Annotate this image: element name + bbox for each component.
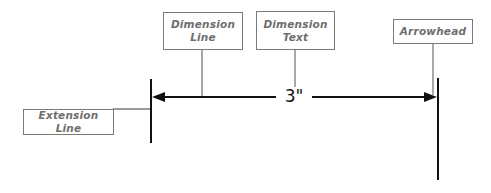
arrowhead-right-icon: [424, 92, 437, 102]
callout-dimension-text-line1: Dimension: [263, 18, 327, 31]
dimension-value-text: 3": [276, 87, 312, 105]
dimension-diagram: 3" Dimension Line Dimension Text Arrowhe…: [0, 0, 491, 193]
callout-dimension-line: Dimension Line: [163, 12, 243, 50]
callout-dimension-line-line2: Line: [190, 31, 216, 44]
callout-arrowhead-label: Arrowhead: [400, 25, 466, 38]
callout-dimension-line-line1: Dimension: [171, 18, 235, 31]
callout-extension-line-label: Extension Line: [24, 109, 113, 135]
arrowhead-left-icon: [152, 92, 165, 102]
callout-extension-line: Extension Line: [23, 109, 114, 135]
callout-arrowhead: Arrowhead: [393, 19, 473, 44]
callout-dimension-text-line2: Text: [283, 31, 309, 44]
callout-dimension-text: Dimension Text: [256, 11, 335, 50]
